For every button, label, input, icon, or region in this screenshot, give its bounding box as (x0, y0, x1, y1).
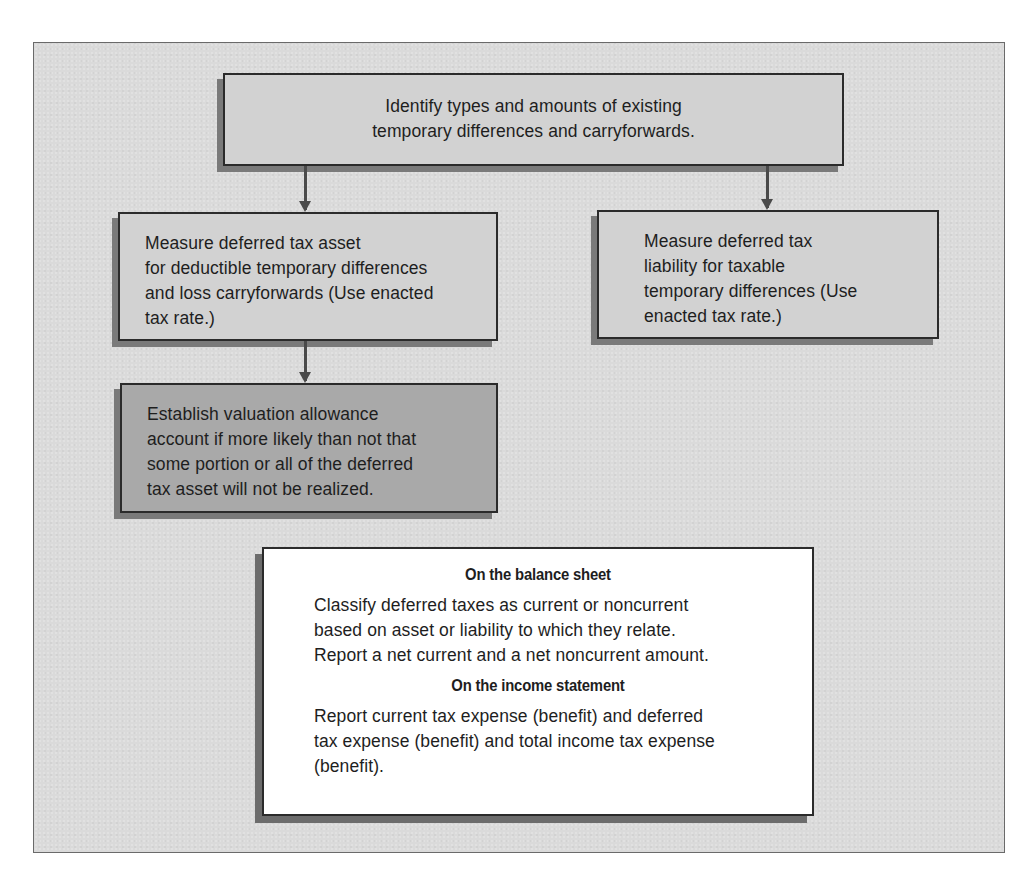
deferred-tax-liability-box: Measure deferred tax liability for taxab… (597, 210, 939, 339)
box-text-line: and loss carryforwards (Use enacted (145, 281, 496, 306)
box-text-line: tax asset will not be realized. (147, 477, 496, 502)
summary-text-line: Report current tax expense (benefit) and… (314, 704, 812, 729)
box-text-line: enacted tax rate.) (644, 304, 937, 329)
summary-text-line: Classify deferred taxes as current or no… (314, 593, 812, 618)
arrow-down-icon (766, 166, 769, 208)
valuation-allowance-box: Establish valuation allowance account if… (120, 383, 498, 513)
summary-text-line: tax expense (benefit) and total income t… (314, 729, 812, 754)
summary-text-line: Report a net current and a net noncurren… (314, 643, 812, 668)
box-text-line: liability for taxable (644, 254, 937, 279)
arrow-down-icon (304, 341, 307, 381)
balance-sheet-heading: On the balance sheet (291, 562, 784, 587)
box-text-line: Measure deferred tax (644, 229, 937, 254)
box-text-line: tax rate.) (145, 306, 496, 331)
summary-text-line: (benefit). (314, 754, 812, 779)
arrow-down-icon (304, 166, 307, 210)
box-text-line: Establish valuation allowance (147, 402, 496, 427)
income-statement-heading: On the income statement (291, 673, 784, 698)
box-text-line: account if more likely than not that (147, 427, 496, 452)
box-text-line: Measure deferred tax asset (145, 231, 496, 256)
box-text-line: for deductible temporary differences (145, 256, 496, 281)
box-text-line: some portion or all of the deferred (147, 452, 496, 477)
box-text-line: temporary differences (Use (644, 279, 937, 304)
balance-sheet-text: Classify deferred taxes as current or no… (314, 593, 812, 668)
deferred-tax-asset-box: Measure deferred tax asset for deductibl… (118, 212, 498, 341)
summary-text-line: based on asset or liability to which the… (314, 618, 812, 643)
income-statement-text: Report current tax expense (benefit) and… (314, 704, 812, 779)
identify-differences-box: Identify types and amounts of existing t… (223, 73, 844, 166)
box-text-line: Identify types and amounts of existing (225, 94, 842, 119)
box-text-line: temporary differences and carryforwards. (225, 119, 842, 144)
financial-statement-summary-box: On the balance sheet Classify deferred t… (262, 547, 814, 816)
